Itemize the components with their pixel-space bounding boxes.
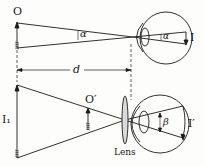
virtual-image-arrow — [15, 85, 19, 158]
image-prime-label: I′ — [188, 118, 195, 129]
bottom-rays — [17, 85, 183, 158]
top-object-arrow — [15, 22, 19, 49]
beta-label: β — [163, 117, 169, 127]
image-label: I — [190, 32, 194, 43]
diagram-graphics — [0, 0, 204, 166]
bottom-retinal-image — [181, 106, 185, 140]
object-label: O — [13, 6, 22, 17]
bottom-eye — [131, 95, 189, 153]
alpha-eye-label: α — [163, 32, 169, 41]
distance-label: d — [73, 64, 80, 75]
top-retinal-image — [184, 32, 188, 45]
alpha-label: α — [80, 29, 87, 39]
lens-label: Lens — [114, 148, 136, 157]
magnifier-diagram: O α α I d I₁ O′ Lens β I′ — [0, 0, 204, 166]
top-rays — [17, 23, 186, 48]
virtual-image-label: I₁ — [2, 114, 11, 125]
object-prime-arrow — [86, 108, 90, 130]
lens — [122, 96, 128, 144]
object-prime-label: O′ — [85, 94, 97, 105]
